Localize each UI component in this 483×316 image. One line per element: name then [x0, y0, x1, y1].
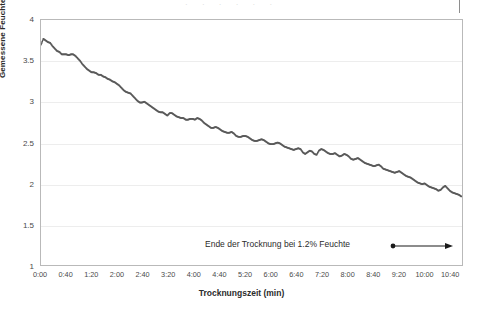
- x-axis-tick-label: 2:40: [135, 270, 149, 279]
- y-axis-tick-label: 2: [4, 179, 38, 188]
- x-axis-tick-label: 8:40: [366, 270, 380, 279]
- x-axis-tick-label: 5:20: [238, 270, 252, 279]
- annotation-label: Ende der Trocknung bei 1.2% Feuchte: [205, 239, 350, 249]
- x-axis-tick-label: 9:20: [392, 270, 406, 279]
- x-axis-tick-label: 10:00: [415, 270, 433, 279]
- x-axis-tick-label: 4:00: [187, 270, 201, 279]
- top-margin-mark: [459, 0, 460, 13]
- x-axis-tick-labels: 0:000:401:202:002:403:204:004:405:206:00…: [40, 270, 463, 282]
- data-series-scatter: [41, 20, 462, 265]
- x-axis-tick-label: 7:20: [315, 270, 329, 279]
- plot-area: [40, 19, 463, 266]
- x-axis-tick-label: 3:20: [161, 270, 175, 279]
- x-axis-tick-label: 6:40: [289, 270, 303, 279]
- y-axis-tick-label: 1.5: [4, 220, 38, 229]
- x-axis-tick-label: 8:00: [341, 270, 355, 279]
- x-axis-tick-label: 0:40: [59, 270, 73, 279]
- annotation-arrow: [390, 240, 454, 252]
- y-axis-tick-label: 3.5: [4, 56, 38, 65]
- x-axis-tick-label: 4:40: [212, 270, 226, 279]
- x-axis-tick-label: 1:20: [84, 270, 98, 279]
- y-axis-tick-label: 2.5: [4, 138, 38, 147]
- x-axis-tick-label: 0:00: [33, 270, 47, 279]
- top-cropped-text-artifact: · · · · · ·: [185, 0, 435, 9]
- y-axis-tick-label: 3: [4, 97, 38, 106]
- chart-page: · · · · · · Gemessene Feuchte (%) 43.532…: [0, 0, 483, 316]
- x-axis-tick-label: 2:00: [110, 270, 124, 279]
- x-axis-tick-label: 6:00: [264, 270, 278, 279]
- y-axis-tick-label: 4: [4, 15, 38, 24]
- x-axis-tick-label: 10:40: [441, 270, 459, 279]
- x-axis-title: Trocknungszeit (min): [0, 288, 483, 298]
- y-axis-tick-labels: 43.532.521.51: [0, 19, 38, 266]
